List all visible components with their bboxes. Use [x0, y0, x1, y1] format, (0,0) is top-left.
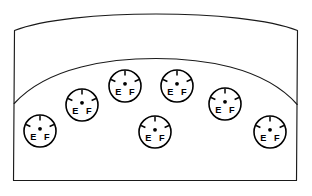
gauge-empty-label: E — [167, 87, 173, 97]
gauge-empty-label: E — [30, 132, 36, 142]
gauge-empty-label: E — [145, 133, 151, 143]
fuel-gauge[interactable]: EF — [66, 89, 98, 121]
fuel-gauge[interactable]: EF — [161, 70, 193, 102]
gauge-needle-hub-dot — [153, 128, 157, 132]
instrument-panel-diagram: EFEFEFEFEFEFEF — [0, 0, 312, 196]
gauge-full-label: F — [181, 87, 187, 97]
gauge-full-label: F — [129, 87, 135, 97]
gauge-needle-hub-dot — [123, 82, 127, 86]
console-panel-outline — [14, 14, 298, 181]
gauge-empty-label: E — [260, 133, 266, 143]
fuel-gauge[interactable]: EF — [109, 70, 141, 102]
gauge-needle-hub-dot — [38, 127, 42, 131]
fuel-gauge[interactable]: EF — [24, 115, 56, 147]
gauge-full-label: F — [229, 105, 235, 115]
gauge-empty-label: E — [72, 106, 78, 116]
gauge-needle-hub-dot — [175, 82, 179, 86]
fuel-gauge[interactable]: EF — [139, 116, 171, 148]
gauge-needle-hub-dot — [268, 128, 272, 132]
fuel-gauge[interactable]: EF — [209, 88, 241, 120]
gauge-empty-label: E — [215, 105, 221, 115]
diagram-root: EFEFEFEFEFEFEF — [0, 0, 312, 196]
gauge-full-label: F — [159, 133, 165, 143]
fuel-gauge[interactable]: EF — [254, 116, 286, 148]
gauge-empty-label: E — [115, 87, 121, 97]
gauge-needle-hub-dot — [223, 100, 227, 104]
gauge-full-label: F — [274, 133, 280, 143]
gauge-needle-hub-dot — [80, 101, 84, 105]
gauge-full-label: F — [44, 132, 50, 142]
gauge-full-label: F — [86, 106, 92, 116]
